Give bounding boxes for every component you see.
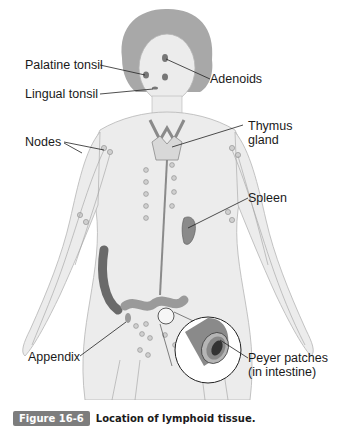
label-lingual-tonsil: Lingual tonsil bbox=[25, 87, 98, 101]
label-adenoids: Adenoids bbox=[210, 72, 262, 86]
label-appendix: Appendix bbox=[28, 350, 80, 364]
label-peyer-line2: (in intestine) bbox=[248, 365, 328, 379]
label-palatine-tonsil: Palatine tonsil bbox=[25, 58, 103, 72]
label-thymus: Thymus gland bbox=[248, 119, 292, 147]
figure-number-badge: Figure 16-6 bbox=[13, 411, 90, 426]
label-thymus-line2: gland bbox=[248, 133, 292, 147]
label-peyer-patches: Peyer patches (in intestine) bbox=[248, 351, 328, 379]
label-thymus-line1: Thymus bbox=[248, 119, 292, 133]
lymphoid-tissue-diagram: Palatine tonsil Adenoids Lingual tonsil … bbox=[0, 0, 340, 400]
palatine-tonsil-right bbox=[162, 74, 168, 81]
adenoids-shape bbox=[162, 54, 168, 62]
label-peyer-line1: Peyer patches bbox=[248, 351, 328, 365]
label-nodes: Nodes bbox=[25, 135, 61, 149]
figure-caption-text: Location of lymphoid tissue. bbox=[96, 413, 256, 424]
label-spleen: Spleen bbox=[248, 191, 287, 205]
appendix-shape bbox=[125, 313, 131, 323]
figure-caption: Figure 16-6 Location of lymphoid tissue. bbox=[13, 411, 255, 426]
